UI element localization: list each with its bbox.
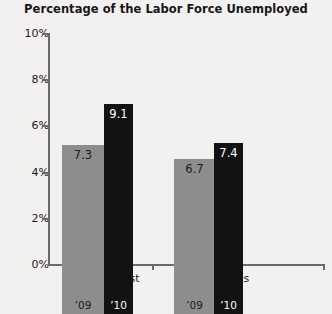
chart-title: Percentage of the Labor Force Unemployed — [0, 2, 332, 16]
unemployment-bar-chart: Percentage of the Labor Force Unemployed… — [0, 0, 332, 314]
bar-year-united-states-2010: ’10 — [214, 300, 243, 311]
x-tick-mark-end — [323, 264, 325, 270]
bar-northeast-2009[interactable]: 7.3 ’09 — [62, 145, 104, 314]
bar-year-united-states-2009: ’09 — [174, 300, 215, 311]
bar-value-northeast-2009: 7.3 — [62, 150, 104, 162]
bar-value-united-states-2010: 7.4 — [214, 148, 243, 160]
bar-year-northeast-2009: ’09 — [62, 300, 104, 311]
y-axis-line — [48, 33, 50, 265]
bar-united-states-2010[interactable]: 7.4 ’10 — [214, 143, 243, 314]
y-tick-label-0: 0% — [9, 258, 49, 271]
bar-year-northeast-2010: ’10 — [104, 300, 133, 311]
bar-northeast-2010[interactable]: 9.1 ’10 — [104, 104, 133, 314]
bar-value-united-states-2009: 6.7 — [174, 164, 215, 176]
bar-value-northeast-2010: 9.1 — [104, 109, 133, 121]
x-tick-mark-group-divider — [152, 264, 154, 270]
bar-united-states-2009[interactable]: 6.7 ’09 — [174, 159, 215, 314]
